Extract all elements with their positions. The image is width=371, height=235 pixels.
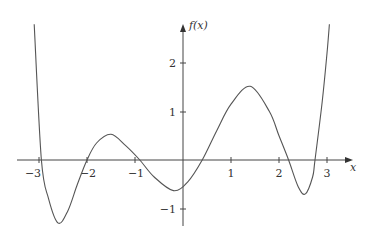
x-tick-label: −3 [25, 167, 41, 180]
x-tick-label: −2 [80, 167, 96, 180]
y-axis-arrow-icon [180, 24, 186, 32]
x-tick-label: 3 [324, 167, 331, 180]
y-axis-label: f(x) [188, 19, 208, 32]
x-axis-label: x [350, 161, 357, 174]
y-tick-label: −1 [160, 203, 176, 216]
x-tick-label: −1 [128, 167, 144, 180]
function-plot: −3 −2 −1 1 2 3 2 1 −1 x f(x) [0, 0, 371, 235]
y-tick-label: 2 [169, 57, 176, 70]
x-tick-label: 2 [276, 167, 283, 180]
x-tick-label: 1 [228, 167, 235, 180]
function-curve [34, 24, 329, 223]
y-tick-label: 1 [169, 106, 176, 119]
